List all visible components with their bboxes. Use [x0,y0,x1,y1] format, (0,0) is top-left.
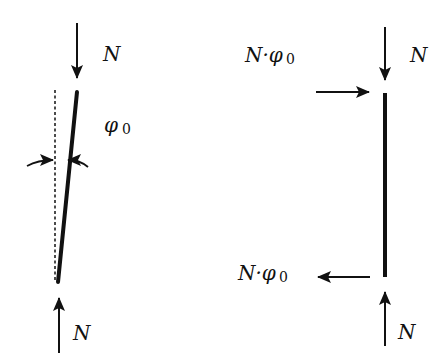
bottom-shear-label-sub: 0 [279,269,288,285]
angle-subscript: 0 [122,121,131,137]
inclined-column [58,92,77,282]
bottom-shear-label-main: N·φ [237,261,276,285]
top-axial-force-label: N [102,42,122,66]
angle-label: φ0 [104,113,131,137]
top-shear-label-sub: 0 [286,51,295,67]
top-axial-force-label: N [409,43,429,67]
angle-arrow-left [27,160,53,166]
bottom-shear-label: N·φ0 [237,261,288,285]
top-shear-label-main: N·φ [244,43,283,67]
bottom-axial-force-label: N [397,320,417,344]
diagram-canvas: N φ0 N N N·φ0 N·φ0 N [0,0,446,364]
left-diagram: N φ0 N [27,23,131,353]
bottom-axial-force-label: N [72,321,92,345]
top-shear-label: N·φ0 [244,43,295,67]
right-diagram: N N·φ0 N·φ0 N [237,27,429,346]
angle-symbol: φ [104,113,118,137]
